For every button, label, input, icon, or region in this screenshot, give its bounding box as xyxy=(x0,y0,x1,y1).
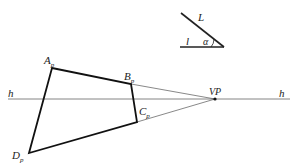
label-VP: VP xyxy=(209,87,221,97)
point-C-sub: p xyxy=(146,112,150,120)
label-l: l xyxy=(186,36,189,47)
label-alpha: α xyxy=(203,37,208,47)
point-A-name: A xyxy=(44,54,51,66)
point-B-name: B xyxy=(124,70,131,82)
quadrilateral-ABCD xyxy=(29,68,137,153)
point-B-sub: p xyxy=(131,77,135,85)
diagram-lines xyxy=(0,0,293,166)
label-h-left: h xyxy=(8,88,14,99)
line-B-VP xyxy=(131,84,215,99)
label-L: L xyxy=(198,12,204,23)
angle-arc xyxy=(211,39,214,47)
label-B: Bp xyxy=(124,71,134,85)
point-A-sub: p xyxy=(51,61,55,69)
label-C: Cp xyxy=(139,106,150,120)
point-D-name: D xyxy=(12,149,20,161)
point-D-sub: p xyxy=(20,156,24,164)
vanishing-point-dot xyxy=(213,97,216,100)
perspective-diagram: L l α h h VP Ap Bp Cp Dp xyxy=(0,0,293,166)
label-A: Ap xyxy=(44,55,54,69)
label-h-right: h xyxy=(279,88,285,99)
label-D: Dp xyxy=(12,150,23,164)
